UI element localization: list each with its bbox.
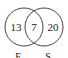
set-f-label: F: [15, 51, 21, 58]
s-only-count: 20: [48, 21, 60, 33]
intersection-count: 7: [31, 21, 37, 33]
f-only-count: 13: [11, 21, 23, 33]
set-s-label: S: [45, 51, 51, 58]
venn-diagram: 13 7 20 F S: [0, 0, 68, 58]
